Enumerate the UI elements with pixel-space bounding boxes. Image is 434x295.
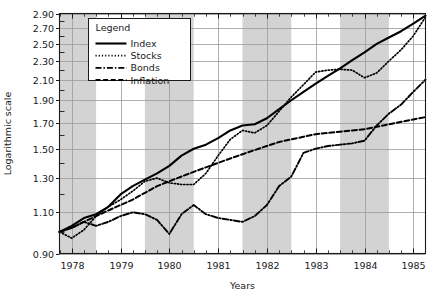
x-tick-label-6: 1984 bbox=[353, 260, 377, 271]
y-tick-label-4: 1.70 bbox=[33, 118, 54, 129]
y-axis-ticks: 0.901.101.301.501.701.902.102.302.502.70… bbox=[33, 9, 60, 260]
y-tick-label-6: 2.10 bbox=[33, 75, 54, 86]
y-tick-label-3: 1.50 bbox=[33, 144, 54, 155]
x-tick-label-1: 1979 bbox=[109, 260, 133, 271]
y-axis-title: Logarithmic scale bbox=[2, 92, 13, 176]
y-tick-label-5: 1.90 bbox=[33, 95, 54, 106]
shaded-band-3 bbox=[340, 14, 389, 254]
x-tick-label-3: 1981 bbox=[206, 260, 230, 271]
legend-label-bonds: Bonds bbox=[131, 62, 160, 73]
y-tick-label-2: 1.30 bbox=[33, 173, 54, 184]
x-axis-title: Years bbox=[229, 280, 255, 291]
y-tick-label-8: 2.50 bbox=[33, 39, 54, 50]
x-tick-label-2: 1980 bbox=[157, 260, 181, 271]
x-tick-label-7: 1985 bbox=[401, 260, 425, 271]
line-chart: 0.901.101.301.501.701.902.102.302.502.70… bbox=[0, 0, 434, 295]
legend-label-inflation: Inflation bbox=[131, 75, 170, 86]
legend-title: Legend bbox=[96, 22, 131, 33]
legend-label-index: Index bbox=[131, 38, 158, 49]
y-tick-label-1: 1.10 bbox=[33, 207, 54, 218]
x-tick-label-4: 1982 bbox=[255, 260, 279, 271]
y-tick-label-10: 2.90 bbox=[33, 9, 54, 20]
y-tick-label-9: 2.70 bbox=[33, 23, 54, 34]
chart-container: 0.901.101.301.501.701.902.102.302.502.70… bbox=[0, 0, 434, 295]
x-tick-label-0: 1978 bbox=[60, 260, 84, 271]
x-tick-label-5: 1983 bbox=[304, 260, 328, 271]
legend-label-stocks: Stocks bbox=[131, 50, 162, 61]
y-tick-label-0: 0.90 bbox=[33, 249, 54, 260]
y-tick-label-7: 2.30 bbox=[33, 56, 54, 67]
legend: LegendIndexStocksBondsInflation bbox=[89, 19, 191, 86]
